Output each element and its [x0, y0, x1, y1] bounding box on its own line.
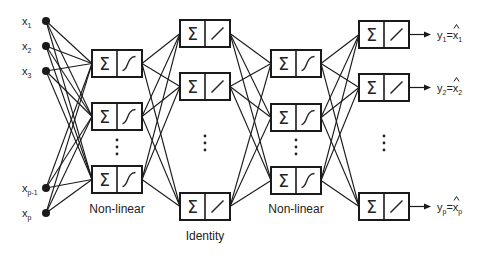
input-label: xp	[22, 207, 32, 222]
ellipsis-dot	[204, 149, 207, 152]
neuron-sigmoid: Σ	[92, 103, 142, 130]
sum-icon: Σ	[187, 24, 198, 44]
neural-network-diagram: ΣΣΣΣΣΣΣΣΣΣΣΣ x1x2x3xp-1xpNon-linearIdent…	[0, 0, 477, 257]
sum-icon: Σ	[366, 78, 377, 98]
input-label: xp-1	[22, 182, 38, 197]
input-label: x1	[22, 15, 32, 29]
output-label: y2=x2	[437, 82, 462, 96]
output-label: yp=xp	[437, 201, 462, 216]
layer-caption: Identity	[186, 229, 225, 243]
neuron-sigmoid: Σ	[271, 167, 321, 194]
input-node	[42, 209, 50, 217]
input-node	[42, 67, 50, 75]
neuron-sigmoid: Σ	[92, 166, 142, 193]
sum-icon: Σ	[187, 197, 198, 217]
layer-caption: Non-linear	[268, 202, 323, 216]
input-node	[42, 184, 50, 192]
arrow-icon	[424, 85, 431, 91]
ellipsis-dot	[295, 139, 298, 142]
ellipsis-dot	[204, 135, 207, 138]
sum-icon: Σ	[99, 54, 110, 74]
input-label: x2	[22, 40, 32, 54]
sum-icon: Σ	[99, 170, 110, 190]
sum-icon: Σ	[278, 54, 289, 74]
ellipsis-dot	[295, 146, 298, 149]
sum-icon: Σ	[278, 171, 289, 191]
sum-icon: Σ	[366, 25, 377, 45]
arrow-icon	[424, 32, 431, 38]
ellipsis-dot	[295, 153, 298, 156]
neuron-sigmoid: Σ	[92, 50, 142, 77]
ellipsis-dot	[383, 135, 386, 138]
ellipsis-dot	[383, 149, 386, 152]
neuron-linear: Σ	[180, 20, 230, 47]
neuron-sigmoid: Σ	[271, 104, 321, 131]
sum-icon: Σ	[99, 107, 110, 127]
neuron-linear: Σ	[359, 74, 409, 101]
neuron-sigmoid: Σ	[271, 50, 321, 77]
layer-caption: Non-linear	[89, 202, 144, 216]
ellipsis-dot	[204, 142, 207, 145]
output-label: y1=x1	[437, 29, 462, 43]
neuron-linear: Σ	[359, 21, 409, 48]
neuron-linear: Σ	[180, 73, 230, 100]
sum-icon: Σ	[187, 77, 198, 97]
input-label: x3	[22, 65, 32, 79]
ellipsis-dot	[383, 142, 386, 145]
neuron-linear: Σ	[359, 193, 409, 220]
sum-icon: Σ	[278, 108, 289, 128]
sum-icon: Σ	[366, 197, 377, 217]
ellipsis-dot	[116, 153, 119, 156]
ellipsis-dot	[116, 139, 119, 142]
ellipsis-dot	[116, 146, 119, 149]
input-node	[42, 42, 50, 50]
input-node	[42, 17, 50, 25]
arrow-icon	[424, 204, 431, 210]
neuron-linear: Σ	[180, 193, 230, 220]
